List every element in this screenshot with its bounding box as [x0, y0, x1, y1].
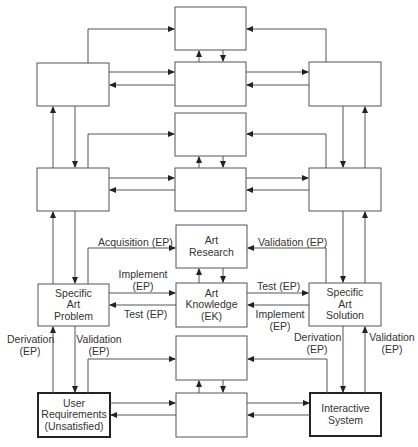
art-knowledge-label: Art Knowledge (EK) — [176, 283, 247, 327]
edge-label-test-right: Test (EP) — [257, 280, 300, 292]
edge-label-validation-left: Validation (EP) — [76, 333, 122, 357]
box-left-2 — [37, 63, 109, 106]
validation-left-line-2: (EP) — [76, 345, 122, 357]
edge-label-derivation-right: Derivation (EP) — [294, 331, 340, 355]
specific-art-solution-line-3: Solution — [326, 310, 364, 322]
derivation-right-line-2: (EP) — [294, 343, 340, 355]
implement-right-line-1: Implement — [255, 308, 305, 320]
diagram-graphics — [0, 0, 418, 447]
edge-label-validation-top: Validation (EP) — [258, 236, 327, 248]
box-top — [175, 7, 246, 50]
diagram: Art Research Specific Art Problem Art Kn… — [0, 0, 418, 447]
box-right-4 — [309, 168, 381, 211]
box-center-3 — [175, 113, 246, 156]
art-research-line-2: Research — [189, 247, 234, 259]
validation-left-line-1: Validation — [76, 333, 122, 345]
box-center-5 — [176, 336, 247, 380]
derivation-right-line-1: Derivation — [294, 331, 340, 343]
interactive-system-label: Interactive System — [310, 393, 381, 436]
implement-left-line-2: (EP) — [118, 280, 168, 292]
box-center-2 — [175, 62, 246, 106]
edge-label-test-left: Test (EP) — [124, 308, 167, 320]
derivation-left-line-1: Derivation — [7, 333, 53, 345]
user-requirements-label: User Requirements (Unsatisfied) — [38, 393, 110, 437]
validation-right-line-2: (EP) — [369, 343, 415, 355]
specific-art-problem-line-3: Problem — [54, 311, 93, 323]
edge-label-derivation-left: Derivation (EP) — [7, 333, 53, 357]
box-center-6 — [176, 393, 247, 437]
edge-label-validation-right: Validation (EP) — [369, 331, 415, 355]
edge-label-implement-left: Implement (EP) — [118, 268, 168, 292]
art-knowledge-line-3: (EK) — [201, 311, 222, 323]
interactive-system-line-2: System — [328, 415, 363, 427]
specific-art-solution-label: Specific Art Solution — [309, 283, 381, 326]
edge-label-acquisition: Acquisition (EP) — [98, 236, 173, 248]
derivation-left-line-2: (EP) — [7, 345, 53, 357]
implement-left-line-1: Implement — [118, 268, 168, 280]
edge-label-implement-right: Implement (EP) — [255, 308, 305, 332]
user-requirements-line-3: (Unsatisfied) — [45, 421, 104, 433]
art-research-line-1: Art — [205, 235, 218, 247]
box-left-4 — [37, 168, 109, 211]
box-center-4 — [175, 168, 246, 211]
specific-art-problem-label: Specific Art Problem — [38, 284, 109, 326]
box-right-2 — [309, 62, 381, 106]
art-research-label: Art Research — [176, 225, 247, 268]
interactive-system-line-1: Interactive — [321, 403, 369, 415]
validation-right-line-1: Validation — [369, 331, 415, 343]
